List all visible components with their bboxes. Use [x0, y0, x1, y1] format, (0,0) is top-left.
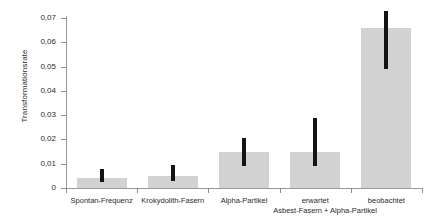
transformationsrate-bar-chart: Transformationsrate 00,010,020,030,040,0…: [0, 0, 428, 224]
y-axis-tick-label: 0,04: [22, 87, 56, 95]
bars-layer: [66, 18, 422, 188]
group-annotation-label: Asbest-Fasern + Alpha-Partikel: [230, 206, 420, 215]
x-axis-tick: [137, 188, 138, 193]
x-axis-tick: [66, 188, 67, 193]
y-axis-tick-label: 0,05: [22, 63, 56, 71]
error-bar: [100, 169, 104, 182]
y-axis-tick-label: 0,06: [22, 38, 56, 46]
x-axis-line: [66, 188, 422, 189]
y-axis-tick-label: 0,01: [22, 160, 56, 168]
x-axis-tick: [280, 188, 281, 193]
error-bar: [313, 118, 317, 167]
y-axis-tick-label: 0,02: [22, 135, 56, 143]
error-bar: [384, 11, 388, 69]
error-bar: [171, 165, 175, 181]
x-axis-tick: [422, 188, 423, 193]
error-bar: [242, 138, 246, 166]
x-axis-tick: [351, 188, 352, 193]
y-axis-tick-label: 0,07: [22, 14, 56, 22]
x-axis-tick: [208, 188, 209, 193]
y-axis-tick-label: 0: [22, 184, 56, 192]
x-axis-label: beobachtet: [336, 196, 428, 205]
y-axis-tick-label: 0,03: [22, 111, 56, 119]
